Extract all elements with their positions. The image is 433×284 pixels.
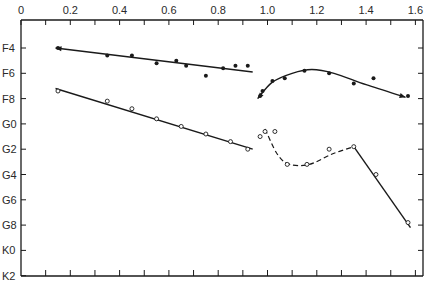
filled-point	[246, 64, 250, 68]
solid-segment	[354, 147, 411, 228]
data-series	[56, 46, 411, 228]
y-tick-label: G2	[2, 143, 17, 155]
x-tick-label: 1.0	[260, 4, 275, 16]
filled-point	[352, 81, 356, 85]
x-tick-label: 1.6	[408, 4, 423, 16]
filled-point	[130, 54, 134, 58]
open-point	[155, 117, 159, 121]
y-tick-label: K0	[2, 244, 15, 256]
dashed-curve	[265, 129, 354, 166]
open-point	[229, 140, 233, 144]
open-point	[263, 129, 267, 133]
filled-point	[327, 71, 331, 75]
open-point	[374, 173, 378, 177]
x-tick-label: 0	[18, 4, 24, 16]
filled-point	[371, 76, 375, 80]
x-tick-label: 1.4	[358, 4, 373, 16]
filled-point	[105, 54, 109, 58]
axis-labels: 00.20.40.60.81.01.21.41.6F4F6F8G0G2G4G6G…	[2, 4, 423, 282]
y-tick-label: G6	[2, 194, 17, 206]
x-tick-label: 0.4	[112, 4, 127, 16]
fit-line	[56, 88, 253, 149]
filled-point	[184, 64, 188, 68]
y-tick-label: K2	[2, 270, 15, 282]
filled-point	[283, 76, 287, 80]
x-tick-label: 0.2	[63, 4, 78, 16]
filled-point	[204, 74, 208, 78]
open-point	[327, 147, 331, 151]
chart-figure: 00.20.40.60.81.01.21.41.6F4F6F8G0G2G4G6G…	[0, 0, 433, 284]
filled-point	[406, 94, 410, 98]
axes	[21, 20, 423, 276]
open-point	[273, 129, 277, 133]
filled-point	[221, 66, 225, 70]
x-tick-label: 0.8	[211, 4, 226, 16]
arrowhead-curve-end	[399, 93, 405, 98]
x-tick-label: 0.6	[161, 4, 176, 16]
filled-point	[302, 69, 306, 73]
filled-point	[270, 79, 274, 83]
filled-point	[174, 59, 178, 63]
open-point	[179, 124, 183, 128]
open-point	[352, 145, 356, 149]
filled-point	[261, 89, 265, 93]
y-tick-label: F6	[2, 67, 15, 79]
y-tick-label: G8	[2, 219, 17, 231]
open-point	[246, 147, 250, 151]
y-tick-label: G0	[2, 118, 17, 130]
y-tick-label: F8	[2, 93, 15, 105]
open-point	[105, 99, 109, 103]
y-tick-label: F4	[2, 42, 15, 54]
x-tick-label: 1.2	[309, 4, 324, 16]
open-point	[130, 107, 134, 111]
y-tick-label: G4	[2, 169, 17, 181]
open-point	[285, 162, 289, 166]
open-point	[258, 135, 262, 139]
fit-curve	[258, 70, 406, 99]
open-point	[204, 132, 208, 136]
filled-point	[155, 61, 159, 65]
open-point	[305, 162, 309, 166]
filled-point	[233, 64, 237, 68]
open-point	[406, 221, 410, 225]
open-point	[56, 89, 60, 93]
